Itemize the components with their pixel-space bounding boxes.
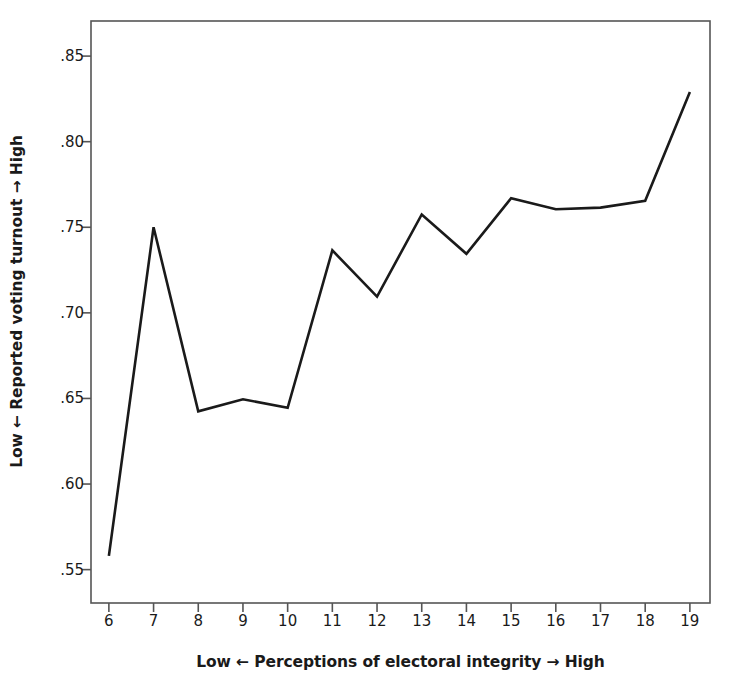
x-axis-tick-label: 6 [104,612,114,630]
plot-area [0,0,732,695]
x-axis-tick-label: 17 [591,612,610,630]
y-axis-tick-label: .75 [60,218,84,236]
x-axis-tick-label: 8 [193,612,203,630]
plot-frame [91,21,710,603]
x-axis-tick-labels: 678910111213141516171819 [0,612,732,640]
y-axis-tick-label: .60 [60,475,84,493]
data-series-line [109,92,690,556]
x-axis-tick-label: 11 [323,612,342,630]
x-axis-tick-label: 19 [680,612,699,630]
line-chart-figure: .85.80.75.70.65.60.55 678910111213141516… [0,0,732,695]
x-axis-ticks [109,603,690,612]
x-axis-tick-label: 12 [367,612,386,630]
x-axis-tick-label: 15 [502,612,521,630]
y-axis-title: Low ← Reported voting turnout → High [0,0,34,603]
x-axis-tick-label: 18 [636,612,655,630]
y-axis-tick-label: .80 [60,133,84,151]
y-axis-tick-labels: .85.80.75.70.65.60.55 [40,0,84,695]
y-axis-tick-label: .55 [60,561,84,579]
y-axis-tick-label: .85 [60,47,84,65]
y-axis-tick-label: .65 [60,389,84,407]
x-axis-tick-label: 7 [149,612,159,630]
x-axis-tick-label: 10 [278,612,297,630]
x-axis-tick-label: 9 [238,612,248,630]
x-axis-tick-label: 14 [457,612,476,630]
x-axis-tick-label: 16 [546,612,565,630]
y-axis-tick-label: .70 [60,304,84,322]
x-axis-tick-label: 13 [412,612,431,630]
x-axis-title: Low ← Perceptions of electoral integrity… [91,653,710,671]
